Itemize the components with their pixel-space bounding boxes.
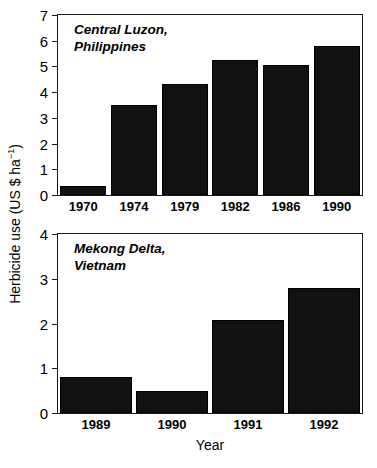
bar-central-luzon-1974: [111, 105, 157, 195]
y-tick-mekong-delta-1: 1: [52, 368, 58, 369]
y-tick-central-luzon-1: 1: [52, 169, 58, 170]
y-tick-central-luzon-7: 7: [52, 15, 58, 16]
y-axis-title-container: Herbicide use (US $ ha−1): [0, 0, 26, 468]
x-tick-label-1990: 1990: [158, 417, 187, 432]
y-tick-label: 3: [40, 270, 48, 290]
y-tick-label: 0: [40, 404, 48, 424]
y-tick-label: 1: [40, 359, 48, 379]
bar-central-luzon-1986: [263, 65, 309, 195]
bar-mekong-delta-1990: [136, 391, 207, 413]
x-tick-label-1991: 1991: [234, 417, 263, 432]
bar-mekong-delta-1992: [288, 288, 359, 413]
y-tick-central-luzon-5: 5: [52, 66, 58, 67]
x-tick-label-1992: 1992: [310, 417, 339, 432]
y-tick-mekong-delta-3: 3: [52, 279, 58, 280]
x-tick-label-1986: 1986: [272, 199, 301, 214]
y-axis-title-text: Herbicide use (US $ ha: [7, 159, 23, 304]
y-tick-central-luzon-4: 4: [52, 92, 58, 93]
panel-central-luzon: Central Luzon, Philippines 0123456719701…: [57, 14, 363, 196]
x-tick-label-1989: 1989: [82, 417, 111, 432]
y-tick-label: 5: [40, 57, 48, 77]
y-axis-title-exponent: −1: [6, 149, 16, 159]
y-tick-mekong-delta-2: 2: [52, 324, 58, 325]
y-tick-label: 1: [40, 160, 48, 180]
figure: Herbicide use (US $ ha−1) Central Luzon,…: [0, 0, 377, 468]
y-tick-mekong-delta-4: 4: [52, 234, 58, 235]
x-tick-label-1982: 1982: [221, 199, 250, 214]
bar-central-luzon-1982: [212, 60, 258, 195]
plot-area-central-luzon: 01234567197019741979198219861990: [58, 15, 362, 195]
y-axis-title-close: ): [7, 144, 23, 149]
y-tick-label: 4: [40, 225, 48, 245]
bar-central-luzon-1990: [314, 46, 360, 195]
y-tick-label: 2: [40, 315, 48, 335]
y-tick-central-luzon-2: 2: [52, 144, 58, 145]
x-tick-label-1979: 1979: [170, 199, 199, 214]
y-tick-label: 7: [40, 6, 48, 26]
bar-central-luzon-1970: [60, 186, 106, 195]
bar-mekong-delta-1991: [212, 320, 283, 413]
y-tick-label: 2: [40, 135, 48, 155]
x-tick-label-1974: 1974: [120, 199, 149, 214]
panel-mekong-delta: Mekong Delta, Vietnam 012341989199019911…: [57, 233, 363, 414]
bar-mekong-delta-1989: [60, 377, 131, 413]
y-tick-label: 6: [40, 32, 48, 52]
x-axis-title: Year: [57, 437, 363, 453]
y-tick-label: 4: [40, 83, 48, 103]
plot-area-mekong-delta: 012341989199019911992: [58, 234, 362, 413]
y-tick-central-luzon-0: 0: [52, 195, 58, 196]
y-tick-central-luzon-6: 6: [52, 41, 58, 42]
x-tick-label-1990: 1990: [322, 199, 351, 214]
y-tick-mekong-delta-0: 0: [52, 413, 58, 414]
y-tick-label: 0: [40, 186, 48, 206]
x-tick-label-1970: 1970: [69, 199, 98, 214]
y-tick-label: 3: [40, 109, 48, 129]
bar-central-luzon-1979: [162, 84, 208, 195]
y-axis-title: Herbicide use (US $ ha−1): [7, 54, 23, 394]
y-tick-central-luzon-3: 3: [52, 118, 58, 119]
